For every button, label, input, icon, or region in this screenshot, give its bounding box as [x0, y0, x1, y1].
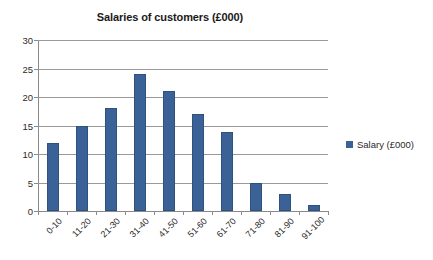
- bar: [279, 194, 291, 211]
- x-tick-mark: [67, 211, 68, 215]
- bar: [76, 126, 88, 212]
- x-tick-mark: [154, 211, 155, 215]
- y-tick-mark: [34, 69, 38, 70]
- x-tick-mark: [299, 211, 300, 215]
- bar: [105, 108, 117, 211]
- x-tick-mark: [270, 211, 271, 215]
- x-tick-label: 81-90: [270, 216, 295, 241]
- legend-label-salary: Salary (£000): [357, 139, 414, 150]
- bar: [163, 91, 175, 211]
- x-tick-label: 0-10: [38, 216, 63, 241]
- x-tick-mark: [212, 211, 213, 215]
- x-tick-label: 41-50: [154, 216, 179, 241]
- y-tick-label: 30: [3, 35, 33, 46]
- bar: [308, 205, 320, 211]
- x-tick-label: 61-70: [212, 216, 237, 241]
- x-tick-mark: [241, 211, 242, 215]
- y-tick-mark: [34, 211, 38, 212]
- x-tick-label: 31-40: [125, 216, 150, 241]
- bar: [134, 74, 146, 211]
- y-tick-mark: [34, 40, 38, 41]
- bar: [192, 114, 204, 211]
- legend-swatch-salary: [346, 141, 353, 148]
- y-tick-label: 20: [3, 92, 33, 103]
- x-tick-label: 71-80: [241, 216, 266, 241]
- y-tick-mark: [34, 154, 38, 155]
- x-tick-mark: [96, 211, 97, 215]
- bar: [250, 183, 262, 212]
- x-tick-mark: [328, 211, 329, 215]
- gridline: [38, 97, 328, 98]
- legend: Salary (£000): [346, 139, 414, 150]
- x-tick-label: 21-30: [96, 216, 121, 241]
- bar: [221, 132, 233, 211]
- y-tick-mark: [34, 126, 38, 127]
- x-tick-label: 11-20: [67, 216, 92, 241]
- x-tick-mark: [38, 211, 39, 215]
- y-tick-label: 15: [3, 120, 33, 131]
- y-tick-mark: [34, 97, 38, 98]
- bar-chart: Salaries of customers (£000) 05101520253…: [0, 0, 433, 260]
- gridline: [38, 69, 328, 70]
- plot-area: [38, 40, 328, 211]
- bar: [47, 143, 59, 211]
- y-tick-label: 0: [3, 206, 33, 217]
- y-tick-mark: [34, 183, 38, 184]
- x-tick-mark: [125, 211, 126, 215]
- y-axis-labels: 051015202530: [0, 0, 33, 260]
- x-tick-label: 51-60: [183, 216, 208, 241]
- gridline: [38, 40, 328, 41]
- y-tick-label: 25: [3, 63, 33, 74]
- y-tick-label: 5: [3, 177, 33, 188]
- chart-title: Salaries of customers (£000): [0, 11, 340, 23]
- x-tick-label: 91-100: [299, 216, 324, 241]
- y-tick-label: 10: [3, 149, 33, 160]
- x-tick-mark: [183, 211, 184, 215]
